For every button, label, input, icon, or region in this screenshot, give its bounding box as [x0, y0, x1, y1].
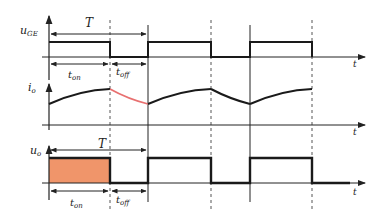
panel-gate-voltage: uGE t T ton toff: [20, 16, 365, 82]
current-decay-1: [110, 89, 148, 104]
xlabel-gate: t: [353, 59, 357, 69]
t-on-label-top: ton: [68, 69, 81, 82]
panel-output-voltage: uo t T ton toff: [30, 137, 365, 210]
xlabel-current: t: [353, 127, 357, 137]
t-off-label-top: toff: [116, 66, 130, 79]
gate-waveform: [49, 42, 312, 57]
on-energy-fill: [49, 158, 110, 183]
current-rise-3: [250, 89, 312, 104]
ylabel-gate: uGE: [20, 24, 38, 38]
panel-output-current: io t: [28, 81, 365, 137]
xlabel-output: t: [353, 187, 357, 197]
t-off-label-bottom: toff: [116, 194, 130, 207]
period-label-bottom: T: [98, 137, 107, 151]
current-decay-2: [211, 89, 250, 104]
ylabel-output: uo: [30, 144, 41, 158]
t-on-label-bottom: ton: [70, 197, 83, 210]
ylabel-current: io: [28, 81, 36, 95]
timing-diagram: uGE t T ton toff io t uo t T t: [0, 0, 383, 217]
period-label-top: T: [85, 16, 94, 30]
current-rise-1: [49, 89, 110, 104]
current-rise-2: [148, 89, 211, 104]
period-boundary-lines: [148, 25, 250, 202]
